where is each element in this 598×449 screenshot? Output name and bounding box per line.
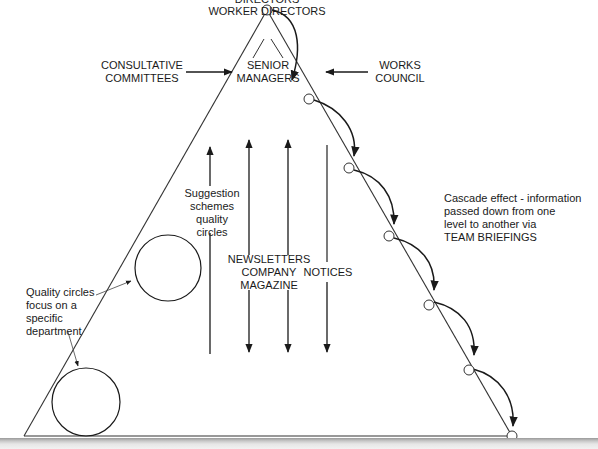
quality-circle-lower xyxy=(52,368,120,436)
worker-directors-label: WORKER DIRECTORS xyxy=(197,5,337,18)
consultative-committees-label: CONSULTATIVE COMMITTEES xyxy=(100,59,184,85)
apex-connector-lines xyxy=(253,39,283,58)
works-council-label: WORKS COUNCIL xyxy=(372,59,428,85)
communication-pyramid-diagram: DIRECTORS WORKER DIRECTORS SENIOR MANAGE… xyxy=(0,0,598,449)
notices-label: NOTICES xyxy=(301,266,355,279)
node-level-3 xyxy=(384,231,394,241)
node-level-2 xyxy=(344,163,354,173)
node-level-5 xyxy=(464,365,474,375)
senior-managers-label: SENIOR MANAGERS xyxy=(233,59,303,85)
quality-circles-note: Quality circles focus on a specific depa… xyxy=(26,286,116,338)
quality-circle-upper xyxy=(135,235,201,301)
newsletters-label: NEWSLETTERS COMPANY MAGAZINE xyxy=(226,253,312,292)
cascade-effect-note: Cascade effect - information passed down… xyxy=(444,192,598,244)
node-level-4 xyxy=(424,300,434,310)
suggestion-schemes-label: Suggestion schemes quality circles xyxy=(180,187,244,239)
node-level-1 xyxy=(304,94,314,104)
bottom-shadow-bar xyxy=(0,438,598,449)
